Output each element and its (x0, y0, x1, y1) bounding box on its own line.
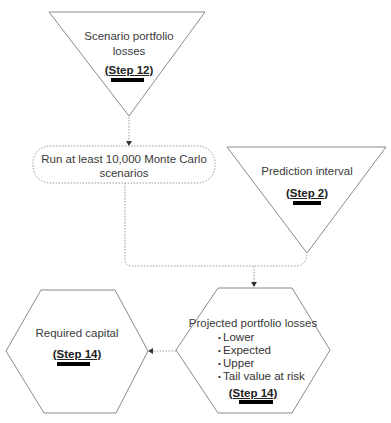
arrowhead-down-icon (126, 141, 132, 146)
scenario-losses-step: (Step 12) (49, 64, 209, 77)
scenario-losses-label-line2: losses (49, 44, 209, 58)
redacted-bar (239, 400, 273, 404)
bullet-tail-var: Tail value at risk (218, 370, 305, 383)
bullet-upper: Upper (218, 357, 305, 370)
step-label: (Step 12) (105, 64, 154, 76)
projected-losses-step: (Step 14) (176, 387, 330, 400)
arrowhead-down-icon (251, 282, 257, 287)
montecarlo-label-line1: Run at least 10,000 Monte Carlo (33, 152, 215, 166)
prediction-interval-step: (Step 2) (227, 187, 387, 200)
required-capital-label: Required capital (6, 326, 148, 340)
projected-losses-label: Projected portfolio losses (176, 316, 330, 330)
bullet-lower: Lower (218, 331, 305, 344)
bullet-expected: Expected (218, 344, 305, 357)
redacted-bar (293, 201, 321, 205)
prediction-interval-label: Prediction interval (227, 164, 387, 178)
required-capital-step: (Step 14) (6, 348, 148, 361)
redacted-bar (111, 78, 144, 82)
projected-losses-bullets: Lower Expected Upper Tail value at risk (218, 331, 305, 383)
step-label: (Step 14) (53, 348, 102, 360)
redacted-bar (57, 362, 90, 366)
step-label: (Step 2) (286, 187, 328, 199)
step-label: (Step 14) (229, 387, 278, 399)
montecarlo-label-line2: scenarios (33, 166, 215, 180)
prediction-interval-triangle (227, 147, 386, 253)
arrowhead-left-icon (148, 348, 153, 354)
scenario-losses-label-line1: Scenario portfolio (49, 29, 209, 43)
